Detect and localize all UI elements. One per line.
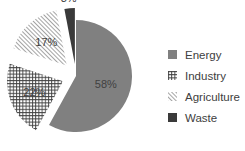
industry-swatch-icon: [168, 71, 177, 80]
legend-label: Energy: [185, 49, 221, 61]
legend: Energy Industry Agriculture Waste: [168, 44, 240, 128]
legend-item-agriculture: Agriculture: [168, 86, 240, 107]
slice-label-industry: 22%: [23, 86, 45, 98]
energy-swatch-icon: [168, 50, 177, 59]
legend-item-energy: Energy: [168, 44, 240, 65]
waste-swatch-icon: [168, 113, 177, 122]
slice-energy: [49, 20, 132, 132]
legend-item-industry: Industry: [168, 65, 240, 86]
slice-label-energy: 58%: [95, 78, 117, 90]
agriculture-swatch-icon: [168, 92, 177, 101]
legend-label: Waste: [185, 112, 217, 124]
legend-label: Agriculture: [185, 91, 240, 103]
legend-label: Industry: [185, 70, 226, 82]
slice-label-waste: 3%: [61, 0, 77, 4]
pie-slices: [7, 8, 132, 132]
slice-waste: [64, 8, 74, 64]
legend-item-waste: Waste: [168, 107, 240, 128]
slice-label-agriculture: 17%: [35, 36, 57, 48]
